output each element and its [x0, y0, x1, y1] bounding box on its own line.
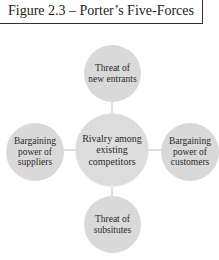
node-label: Bargaining power of customers: [161, 136, 219, 168]
node-label: Threat of new entrants: [84, 63, 141, 84]
node-bargaining-power-suppliers: Bargaining power of suppliers: [6, 123, 64, 181]
node-label: Threat of subsitutes: [84, 214, 141, 235]
node-bargaining-power-customers: Bargaining power of customers: [161, 123, 219, 181]
node-label: Rivalry among existing competitors: [76, 133, 148, 167]
node-threat-of-new-entrants: Threat of new entrants: [84, 45, 141, 102]
node-label: Bargaining power of suppliers: [6, 136, 64, 168]
node-threat-of-substitutes: Threat of subsitutes: [84, 196, 141, 253]
node-rivalry-among-competitors: Rivalry among existing competitors: [75, 113, 149, 187]
